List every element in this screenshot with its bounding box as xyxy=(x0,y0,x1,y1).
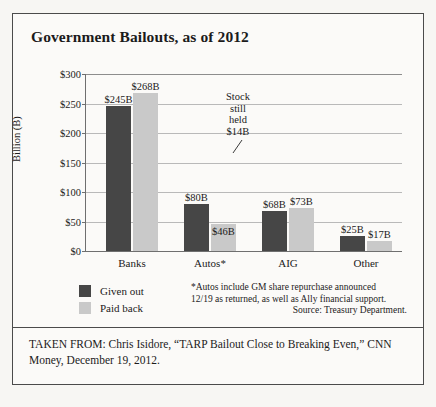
bar-aig-paid-back[interactable]: $73B xyxy=(289,208,314,251)
annotation-line-2: still xyxy=(214,103,262,115)
bar-autos-paid-back[interactable]: $46B xyxy=(211,224,236,251)
bar-value-aig-paid-back: $73B xyxy=(290,196,313,207)
legend-label-paid-back: Paid back xyxy=(100,302,143,314)
y-tick-mark-0 xyxy=(82,251,86,252)
annotation-leader-line-icon xyxy=(232,140,244,154)
y-tick-mark-200 xyxy=(82,133,86,134)
chart-footnote: *Autos include GM share repurchase annou… xyxy=(191,282,407,317)
stock-still-held-annotation: Stock still held $14B xyxy=(214,91,262,137)
y-tick-mark-100 xyxy=(82,192,86,193)
footnote-source: Source: Treasury Department. xyxy=(191,305,407,317)
legend-label-given-out: Given out xyxy=(100,285,144,297)
chart-plot: Billion (B) $300 $250 $200 $150 $100 $50… xyxy=(13,14,425,276)
bar-value-aig-given-out: $68B xyxy=(263,199,286,210)
bar-banks-given-out[interactable]: $245B xyxy=(106,106,131,251)
bar-other-paid-back[interactable]: $17B xyxy=(367,241,392,251)
bar-value-autos-given-out: $80B xyxy=(185,192,208,203)
figure-frame: Government Bailouts, as of 2012 Billion … xyxy=(12,13,424,385)
bar-value-autos-paid-back: $46B xyxy=(212,226,235,237)
y-tick-300: $300 xyxy=(60,69,81,80)
annotation-line-3: held xyxy=(214,114,262,126)
y-tick-0: $0 xyxy=(71,246,82,257)
y-tick-150: $150 xyxy=(60,157,81,168)
bar-group-banks: $245B $268B Banks xyxy=(106,74,158,251)
y-tick-mark-50 xyxy=(82,222,86,223)
x-label-aig: AIG xyxy=(278,257,298,269)
bar-group-other: $25B $17B Other xyxy=(340,74,392,251)
y-tick-200: $200 xyxy=(60,128,81,139)
y-axis-title: Billion (B) xyxy=(11,116,22,162)
bar-banks-paid-back[interactable]: $268B xyxy=(133,93,158,251)
legend-item-paid-back[interactable]: Paid back xyxy=(79,299,144,316)
x-label-autos: Autos* xyxy=(194,257,226,269)
bar-aig-given-out[interactable]: $68B xyxy=(262,211,287,251)
footnote-line-2: 12/19 as returned, as well as Ally finan… xyxy=(191,294,407,306)
y-tick-mark-150 xyxy=(82,163,86,164)
bar-value-banks-paid-back: $268B xyxy=(131,81,159,92)
x-label-other: Other xyxy=(353,257,378,269)
plot-area: $300 $250 $200 $150 $100 $50 $0 $245B $2… xyxy=(85,74,402,252)
footnote-line-1: *Autos include GM share repurchase annou… xyxy=(191,282,407,294)
bar-autos-given-out[interactable]: $80B xyxy=(184,204,209,251)
bar-group-aig: $68B $73B AIG xyxy=(262,74,314,251)
legend-swatch-icon-paid-back xyxy=(79,302,91,314)
y-tick-mark-250 xyxy=(82,104,86,105)
legend-swatch-icon-given-out xyxy=(79,285,91,297)
chart-legend: Given out Paid back xyxy=(79,282,144,316)
caption-divider xyxy=(13,327,423,328)
bar-value-other-given-out: $25B xyxy=(341,224,364,235)
annotation-line-1: Stock xyxy=(214,91,262,103)
bar-value-banks-given-out: $245B xyxy=(104,94,132,105)
legend-item-given-out[interactable]: Given out xyxy=(79,282,144,299)
y-tick-mark-300 xyxy=(82,74,86,75)
y-tick-250: $250 xyxy=(60,98,81,109)
x-label-banks: Banks xyxy=(118,257,146,269)
y-tick-100: $100 xyxy=(60,187,81,198)
annotation-value-14b: $14B xyxy=(214,126,262,138)
figure-caption: TAKEN FROM: Chris Isidore, “TARP Bailout… xyxy=(29,336,409,368)
bar-other-given-out[interactable]: $25B xyxy=(340,236,365,251)
bar-value-other-paid-back: $17B xyxy=(368,229,391,240)
y-tick-50: $50 xyxy=(65,216,81,227)
